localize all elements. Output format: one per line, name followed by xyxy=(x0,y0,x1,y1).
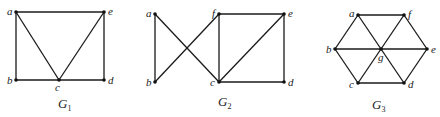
graph-g3: abcdefgG3 xyxy=(326,7,436,114)
vertex-label-e: e xyxy=(431,43,436,55)
graph-figure: abcdeG1 abcdefG2 abcdefgG3 xyxy=(0,0,440,117)
edge-a-b xyxy=(335,15,358,49)
vertex-label-e: e xyxy=(288,7,293,19)
graph-title: G2 xyxy=(218,94,231,111)
vertex-b xyxy=(14,78,18,82)
vertex-label-g: g xyxy=(378,51,384,63)
vertex-a xyxy=(356,13,360,17)
graph-title: G3 xyxy=(372,97,385,114)
vertex-label-f: f xyxy=(408,8,413,20)
vertex-c xyxy=(356,81,360,85)
vertex-label-b: b xyxy=(7,74,13,86)
edge-b-c xyxy=(335,49,358,83)
graph-g2: abcdefG2 xyxy=(146,7,294,111)
graph-title-subscript: 1 xyxy=(67,104,71,113)
vertex-a xyxy=(14,10,18,14)
edge-f-e xyxy=(404,15,427,49)
vertex-d xyxy=(282,80,286,84)
graph-title-subscript: 2 xyxy=(227,102,231,111)
edge-f-g xyxy=(381,15,404,49)
graph-title-subscript: 3 xyxy=(381,105,385,114)
vertex-e xyxy=(102,10,106,14)
graph-title: G1 xyxy=(58,96,71,113)
vertex-label-a: a xyxy=(349,7,355,19)
edge-a-c xyxy=(16,12,59,80)
vertex-label-b: b xyxy=(146,76,152,88)
vertex-label-e: e xyxy=(108,5,113,17)
edge-c-e xyxy=(219,14,284,82)
vertex-c xyxy=(217,80,221,84)
vertex-f xyxy=(217,12,221,16)
edge-e-c xyxy=(59,12,104,80)
edge-g-d xyxy=(381,49,404,83)
vertex-label-c: c xyxy=(55,81,60,93)
vertex-label-d: d xyxy=(108,74,114,86)
vertex-d xyxy=(102,78,106,82)
vertex-label-a: a xyxy=(146,7,152,19)
vertex-label-c: c xyxy=(349,78,354,90)
vertex-label-d: d xyxy=(408,78,414,90)
vertex-e xyxy=(282,12,286,16)
vertex-label-b: b xyxy=(326,43,332,55)
vertex-a xyxy=(153,12,157,16)
vertex-d xyxy=(402,81,406,85)
vertex-label-c: c xyxy=(210,76,215,88)
edge-a-g xyxy=(358,15,381,49)
graph-g1: abcdeG1 xyxy=(7,5,114,113)
vertex-b xyxy=(333,47,337,51)
vertex-e xyxy=(425,47,429,51)
vertex-label-d: d xyxy=(288,76,294,88)
vertex-label-a: a xyxy=(7,5,13,17)
vertex-f xyxy=(402,13,406,17)
vertex-b xyxy=(153,80,157,84)
